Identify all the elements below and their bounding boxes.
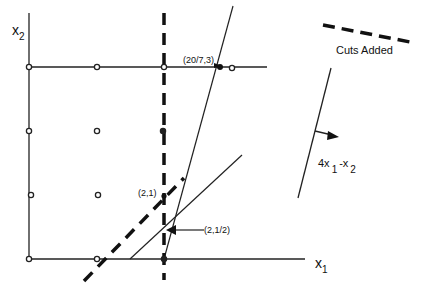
objective-mid: -x <box>339 157 348 169</box>
x1-axis-label: x1 <box>315 255 328 275</box>
label-point-2-1: (2,1) <box>138 188 157 198</box>
label-point-2-half: (2,1/2) <box>204 225 230 235</box>
constraint-shallow <box>130 155 242 259</box>
x1-label-main: x <box>315 255 322 271</box>
label-lp-optimum: (20/7,3) <box>183 55 214 65</box>
legend-label: Cuts Added <box>336 44 393 56</box>
x2-label-main: x <box>12 22 19 38</box>
x1-label-sub: 1 <box>322 264 328 275</box>
objective-prefix: 4x <box>318 157 330 169</box>
x2-label-sub: 2 <box>19 31 25 42</box>
objective-sub1: 1 <box>332 164 338 175</box>
point-2-1 <box>161 193 166 198</box>
objective-arrow-icon <box>327 131 339 140</box>
objective-sub2: 2 <box>350 164 356 175</box>
x2-axis-label: x2 <box>12 22 25 42</box>
objective-label: 4x1-x2 <box>318 157 358 175</box>
constraint-steep <box>164 6 233 259</box>
legend-dash-icon <box>323 25 410 42</box>
